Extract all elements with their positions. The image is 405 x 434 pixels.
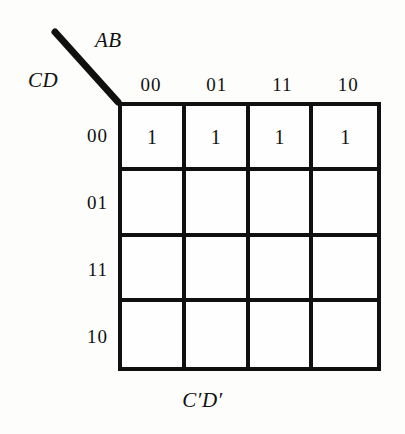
- row-header-column: 00 01 11 10: [62, 102, 110, 371]
- kmap-cell[interactable]: [122, 237, 186, 302]
- kmap-cell[interactable]: [186, 171, 250, 236]
- row-header-01: 01: [62, 169, 110, 236]
- column-header-11: 11: [250, 72, 316, 98]
- row-header-11: 11: [62, 237, 110, 304]
- kmap-cell[interactable]: 1: [250, 106, 314, 171]
- kmap-cell[interactable]: [250, 302, 314, 367]
- column-header-00: 00: [118, 72, 184, 98]
- figure-caption: C′D′: [0, 388, 405, 413]
- column-header-01: 01: [184, 72, 250, 98]
- kmap-cell[interactable]: [186, 237, 250, 302]
- column-header-row: 00 01 11 10: [118, 72, 381, 98]
- kmap-cell[interactable]: [313, 237, 377, 302]
- kmap-cell[interactable]: 1: [313, 106, 377, 171]
- kmap-cell[interactable]: [122, 171, 186, 236]
- kmap-cell[interactable]: 1: [186, 106, 250, 171]
- column-header-10: 10: [315, 72, 381, 98]
- row-header-00: 00: [62, 102, 110, 169]
- kmap-cell[interactable]: [122, 302, 186, 367]
- kmap-cell[interactable]: [313, 171, 377, 236]
- kmap-cell[interactable]: [250, 237, 314, 302]
- kmap-cell[interactable]: [313, 302, 377, 367]
- kmap-cell[interactable]: [250, 171, 314, 236]
- row-header-10: 10: [62, 304, 110, 371]
- row-variable-label: CD: [28, 70, 58, 91]
- kmap-cell[interactable]: 1: [122, 106, 186, 171]
- column-variable-label: AB: [95, 30, 122, 51]
- kmap-cell[interactable]: [186, 302, 250, 367]
- kmap-grid: 1 1 1 1: [118, 102, 381, 371]
- karnaugh-map-figure: AB CD 00 01 11 10 00 01 11 10 1 1 1 1: [0, 0, 405, 434]
